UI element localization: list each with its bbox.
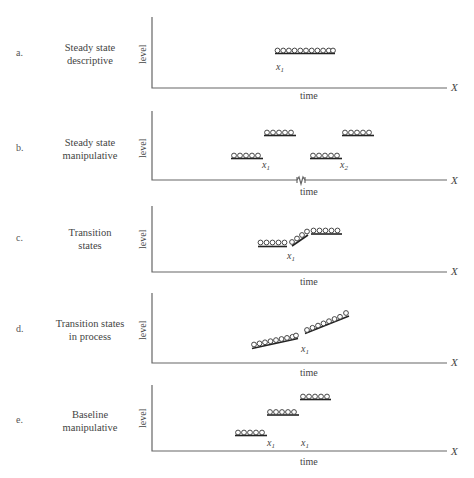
panel-e-marker-x1-first: x1 bbox=[266, 437, 275, 450]
panel-c-ylabel: level bbox=[137, 229, 148, 249]
panel-e-axes bbox=[152, 385, 447, 451]
panel-d-marker-x1: x1 bbox=[300, 343, 309, 356]
panel-e-series-low bbox=[235, 430, 267, 435]
panel-c-xlabel: time bbox=[300, 276, 318, 287]
panel-a-marker-x1: x1 bbox=[275, 61, 284, 74]
panel-b-xlabel: time bbox=[300, 186, 318, 197]
panel-b-graph: level time X bbox=[137, 111, 459, 197]
panel-b-ylabel: level bbox=[137, 138, 148, 158]
panel-a-ylabel: level bbox=[137, 44, 148, 64]
panel-b-series-high-1 bbox=[264, 130, 296, 135]
panel-b-marker-x2: x2 bbox=[339, 159, 348, 172]
panel-a-data-series bbox=[275, 48, 335, 53]
panel-b-axis-end-label: X bbox=[450, 174, 459, 186]
panel-c-series-before bbox=[258, 240, 287, 246]
panel-a-axis-end-label: X bbox=[450, 81, 459, 93]
panel-e-xlabel: time bbox=[300, 456, 318, 467]
diagram-canvas: level time X x1 level time X bbox=[0, 0, 474, 478]
panel-b-series-low-2 bbox=[310, 153, 342, 158]
panel-c-graph: level time X x1 bbox=[137, 206, 459, 287]
panel-d-graph: level time X x1 bbox=[137, 293, 459, 378]
panel-c-series-transition bbox=[290, 229, 310, 246]
panel-b-marker-x1: x1 bbox=[261, 159, 270, 172]
panel-d-axes bbox=[152, 293, 447, 363]
panel-b-series-low-1 bbox=[231, 153, 263, 158]
panel-b-axes bbox=[152, 111, 297, 180]
panel-e-series-mid bbox=[267, 410, 299, 415]
panel-e-axis-end-label: X bbox=[450, 445, 459, 457]
panel-e-marker-x1-second: x1 bbox=[300, 437, 309, 450]
panel-b-axis-break bbox=[297, 177, 447, 184]
panel-a-graph: level time X x1 bbox=[137, 17, 459, 101]
panel-c-series-after bbox=[311, 228, 342, 234]
panel-a-xlabel: time bbox=[300, 90, 318, 101]
panel-e-ylabel: level bbox=[137, 408, 148, 428]
panel-d-ylabel: level bbox=[137, 320, 148, 340]
panel-d-xlabel: time bbox=[300, 367, 318, 378]
panel-d-series-lower-ramp bbox=[252, 333, 299, 348]
panel-b-series-high-2 bbox=[342, 130, 374, 135]
panel-e-series-high bbox=[300, 394, 331, 399]
panel-e-graph: level time X x1 x1 bbox=[137, 385, 459, 467]
panel-d-axis-end-label: X bbox=[450, 356, 459, 368]
panel-c-marker-x1: x1 bbox=[286, 250, 295, 263]
panel-c-axis-end-label: X bbox=[450, 265, 459, 277]
panel-d-series-upper-ramp bbox=[305, 311, 349, 334]
